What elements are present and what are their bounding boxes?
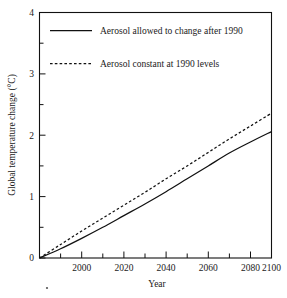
x-axis-ticks xyxy=(61,252,272,259)
plot-frame xyxy=(40,13,272,259)
x-tick-label: 2000 xyxy=(72,263,91,273)
y-tick-label: 2 xyxy=(29,131,34,141)
y-tick-label: 1 xyxy=(29,192,34,202)
y-tick-label: 4 xyxy=(29,8,34,18)
x-tick-label: 2100 xyxy=(262,263,281,273)
stray-mark xyxy=(46,287,48,289)
temperature-projection-chart: 0 1 2 3 4 2000 2020 2040 2060 2080 2100 … xyxy=(0,0,287,298)
x-tick-label: 2080 xyxy=(241,263,260,273)
x-axis-tick-labels: 2000 2020 2040 2060 2080 2100 xyxy=(72,263,281,273)
chart-legend: Aerosol allowed to change after 1990 Aer… xyxy=(50,26,243,69)
y-axis-tick-labels: 0 1 2 3 4 xyxy=(29,8,34,263)
legend-label-aerosol-changing: Aerosol allowed to change after 1990 xyxy=(100,26,243,36)
y-axis-title: Global temperature change (°C) xyxy=(7,74,18,196)
series-line-aerosol-changing xyxy=(40,132,272,258)
legend-label-aerosol-constant: Aerosol constant at 1990 levels xyxy=(100,59,220,69)
x-tick-label: 2040 xyxy=(157,263,176,273)
x-axis-title: Year xyxy=(148,279,166,289)
y-axis-ticks xyxy=(40,13,46,259)
y-tick-label: 0 xyxy=(29,253,34,263)
series-line-aerosol-constant xyxy=(40,113,272,258)
y-tick-label: 3 xyxy=(29,69,34,79)
x-tick-label: 2060 xyxy=(199,263,218,273)
x-tick-label: 2020 xyxy=(114,263,133,273)
